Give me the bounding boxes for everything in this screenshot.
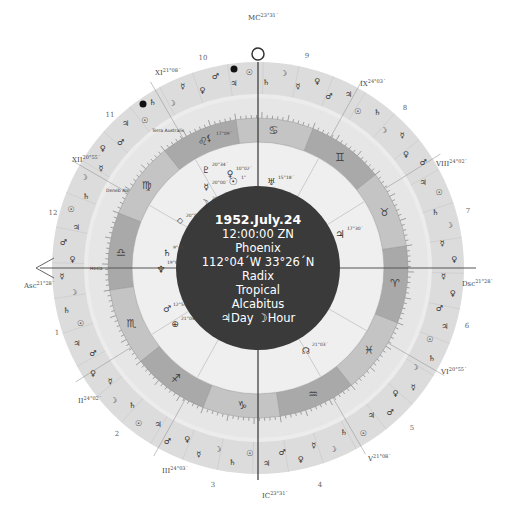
- zodiac-sign-icon: ♊: [335, 151, 345, 164]
- jupiter-icon: ♃: [335, 228, 345, 241]
- outer-planet-glyph-icon: ☽: [169, 99, 176, 108]
- star-hesia: Hesia: [90, 266, 103, 271]
- svg-text:2: 2: [115, 430, 119, 438]
- outer-planet-glyph-icon: ♀: [100, 144, 106, 153]
- cusp-label-vi: VI20°55´: [440, 366, 467, 376]
- svg-text:12: 12: [49, 209, 58, 217]
- outer-planet-glyph-icon: ♃: [345, 90, 352, 99]
- outer-planet-glyph-icon: ♂: [387, 408, 394, 417]
- outer-planet-glyph-icon: ♄: [340, 428, 347, 437]
- outer-planet-glyph-icon: ♃: [73, 339, 80, 348]
- cusp-label-xi: XI21°08´: [155, 67, 181, 77]
- north-node-icon: ☊: [302, 346, 310, 356]
- zodiac-sign-icon: ♓: [364, 344, 374, 357]
- outer-planet-glyph-icon: ♄: [149, 98, 156, 107]
- cusp-label-ii: II24°02´: [78, 395, 102, 405]
- outer-planet-glyph-icon: ☿: [440, 239, 445, 248]
- svg-text:12°59´: 12°59´: [173, 302, 189, 307]
- svg-text:15°18´: 15°18´: [278, 175, 294, 180]
- svg-text:1°: 1°: [241, 175, 246, 180]
- outer-planet-glyph-icon: ♃: [263, 459, 270, 468]
- cusp-label-iii: III24°03´: [162, 465, 189, 475]
- svg-text:5: 5: [410, 424, 414, 432]
- outer-planet-glyph-icon: ☽: [70, 288, 77, 297]
- svg-text:3: 3: [211, 481, 215, 489]
- outer-planet-glyph-icon: ♃: [230, 79, 237, 88]
- mars-icon: ♂: [163, 304, 171, 314]
- moon-icon: ☽: [198, 197, 210, 212]
- outer-planet-glyph-icon: ☉: [77, 319, 84, 328]
- zodiac-sign-icon: ♐: [171, 372, 181, 385]
- outer-planet-glyph-icon: ☽: [411, 363, 418, 372]
- zodiac-sign-icon: ♑: [238, 399, 248, 412]
- svg-text:17°30´: 17°30´: [347, 226, 363, 231]
- pluto-icon: ♇: [202, 165, 210, 175]
- outer-planet-glyph-icon: ♃: [154, 420, 161, 429]
- zodiac-sign-icon: ♍: [142, 179, 152, 192]
- zodiac-sign-icon: ♎: [116, 246, 126, 259]
- outer-planet-glyph-icon: ☽: [446, 221, 453, 230]
- outer-planet-glyph-icon: ☽: [380, 126, 387, 135]
- svg-text:20°00´: 20°00´: [212, 180, 228, 185]
- outer-planet-glyph-icon: ☿: [181, 82, 186, 91]
- outer-planet-glyph-icon: ☿: [197, 450, 202, 459]
- outer-planet-glyph-icon: ♂: [60, 238, 67, 247]
- cusp-label-ix: IX24°03´: [360, 78, 386, 88]
- mc-circle-icon: [252, 48, 264, 60]
- outer-planet-glyph-icon: ♀: [69, 255, 75, 264]
- outer-planet-glyph-icon: ☉: [246, 68, 253, 77]
- outer-planet-glyph-icon: ♂: [117, 138, 124, 147]
- outer-planet-glyph-icon: ☿: [108, 377, 113, 386]
- svg-text:20°57´: 20°57´: [186, 213, 202, 218]
- chart-place: Phoenix: [235, 241, 281, 255]
- svg-text:4: 4: [318, 481, 323, 489]
- svg-text:10: 10: [199, 54, 208, 62]
- outer-planet-glyph-icon: ☉: [354, 107, 361, 116]
- outer-planet-glyph-icon: ☿: [60, 272, 65, 281]
- outer-planet-glyph-icon: ♀: [392, 389, 398, 398]
- star-terra-australis: Terra Australis: [151, 128, 185, 133]
- svg-text:11: 11: [106, 111, 115, 119]
- svg-text:10°02´: 10°02´: [236, 166, 252, 171]
- outer-planet-glyph-icon: ♄: [229, 458, 236, 467]
- outer-planet-glyph-icon: ♄: [432, 208, 439, 217]
- outer-planet-glyph-icon: ☽: [81, 173, 88, 182]
- asc-label: Asc21°28´: [23, 280, 55, 290]
- neptune-icon: ♆: [157, 264, 166, 275]
- outer-planet-glyph-icon: ♂: [279, 448, 286, 457]
- chart-zodiac: Tropical: [235, 283, 280, 297]
- cusp-label-viii: VIII24°02´: [435, 158, 468, 168]
- saturn-icon: ♄: [163, 248, 171, 258]
- svg-text:1: 1: [55, 329, 59, 337]
- outer-planet-glyph-icon: ♃: [419, 178, 426, 187]
- black-dot-marker: [140, 101, 147, 108]
- svg-text:8: 8: [403, 104, 407, 112]
- outer-planet-glyph-icon: ♂: [212, 72, 219, 81]
- svg-text:21°03´: 21°03´: [312, 342, 328, 347]
- star-deneb-ale: Deneb Ale: [106, 188, 129, 193]
- outer-planet-glyph-icon: ☉: [246, 449, 253, 458]
- svg-text:21°04´: 21°04´: [181, 316, 197, 321]
- svg-text:9: 9: [305, 52, 309, 60]
- outer-planet-glyph-icon: ☽: [214, 445, 221, 454]
- outer-planet-glyph-icon: ☿: [99, 164, 104, 173]
- outer-planet-glyph-icon: ♄: [129, 401, 136, 410]
- outer-planet-glyph-icon: ♀: [184, 435, 190, 444]
- outer-planet-glyph-icon: ♀: [90, 369, 96, 378]
- outer-planet-glyph-icon: ☿: [400, 131, 405, 140]
- outer-planet-glyph-icon: ☽: [280, 69, 287, 78]
- outer-planet-glyph-icon: ♂: [326, 92, 333, 101]
- outer-planet-glyph-icon: ♃: [368, 411, 375, 420]
- zodiac-sign-icon: ♏: [127, 317, 137, 330]
- venus-icon: ♀: [227, 169, 234, 179]
- chart-type: Radix: [242, 269, 274, 283]
- astrology-chart-wheel: ♈♉♊♋♌♍♎♏♐♑♒♓ 1952.July.24 12:00:00 ZN Ph…: [0, 0, 518, 517]
- outer-planet-glyph-icon: ♄: [63, 306, 70, 315]
- chart-date: 1952.July.24: [215, 212, 302, 227]
- outer-planet-glyph-icon: ♄: [428, 354, 435, 363]
- mercury-icon: ☿: [203, 182, 209, 192]
- svg-text:29°: 29°: [212, 196, 220, 201]
- outer-planet-glyph-icon: ♀: [449, 289, 455, 298]
- outer-planet-glyph-icon: ☽: [110, 396, 117, 405]
- outer-planet-glyph-icon: ♀: [403, 150, 409, 159]
